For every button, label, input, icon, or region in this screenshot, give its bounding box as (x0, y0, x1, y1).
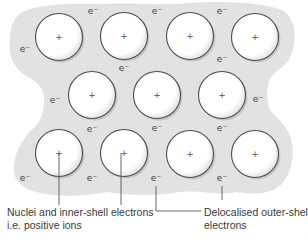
electron-label: e⁻ (152, 6, 163, 16)
plus-sign-icon: + (186, 31, 194, 41)
electrons-caption: Delocalised outer-shell electrons (204, 206, 308, 232)
ions-caption-line2: i.e. positive ions (7, 219, 154, 232)
electrons-caption-line1: Delocalised outer-shell (204, 206, 308, 219)
plus-sign-icon: + (120, 31, 128, 41)
plus-sign-icon: + (55, 32, 63, 42)
plus-sign-icon: + (251, 149, 259, 159)
electron-label: e⁻ (119, 63, 130, 73)
electron-label: e⁻ (152, 123, 163, 133)
electron-label: e⁻ (87, 124, 98, 134)
electron-label: e⁻ (151, 173, 162, 183)
electron-label: e⁻ (217, 6, 228, 16)
plus-sign-icon: + (88, 90, 96, 100)
electron-label: e⁻ (88, 6, 99, 16)
electron-label: e⁻ (217, 123, 228, 133)
electron-label: e⁻ (217, 54, 228, 64)
ions-caption: Nuclei and inner-shell electrons i.e. po… (7, 206, 154, 232)
electron-label: e⁻ (87, 173, 98, 183)
plus-sign-icon: + (186, 149, 194, 159)
electron-label: e⁻ (20, 173, 31, 183)
plus-sign-icon: + (251, 32, 259, 42)
electron-label: e⁻ (253, 94, 264, 104)
plus-sign-icon: + (153, 90, 161, 100)
electron-label: e⁻ (50, 95, 61, 105)
plus-sign-icon: + (218, 90, 226, 100)
ions-caption-line1: Nuclei and inner-shell electrons (7, 206, 154, 219)
electron-label: e⁻ (217, 173, 228, 183)
electron-label: e⁻ (20, 44, 31, 54)
electrons-caption-line2: electrons (204, 219, 308, 232)
